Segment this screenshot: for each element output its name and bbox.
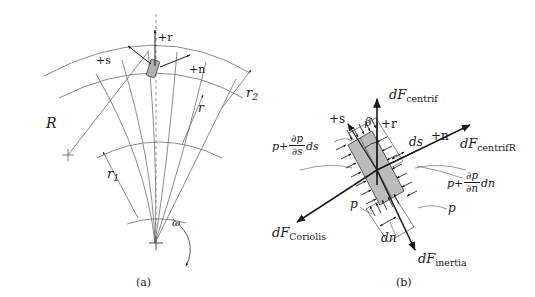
label-p-right: p — [448, 202, 456, 214]
label-p-left: p — [350, 198, 358, 210]
label-dF-centrif: dFcentrif — [389, 88, 438, 103]
label-dF-centrifR: dFcentrifR — [460, 137, 516, 152]
label-pressure-gradient-n: p+∂p∂ndn — [447, 170, 495, 194]
label-pressure-gradient-s: p+∂p∂sds — [272, 133, 319, 157]
label-plus-r-b: +r — [381, 118, 397, 130]
label-beta: β — [365, 117, 371, 128]
caption-panel-b: (b) — [396, 276, 412, 289]
label-dF-inertia: dFinertia — [418, 252, 467, 267]
label-ds: ds — [409, 136, 423, 148]
label-dF-Coriolis: dFCoriolis — [272, 226, 326, 241]
label-plus-n-b: +n — [431, 130, 449, 142]
label-dn: dn — [381, 232, 396, 244]
label-plus-s-b: +s — [329, 113, 345, 125]
vector-dF-Coriolis — [297, 170, 377, 222]
